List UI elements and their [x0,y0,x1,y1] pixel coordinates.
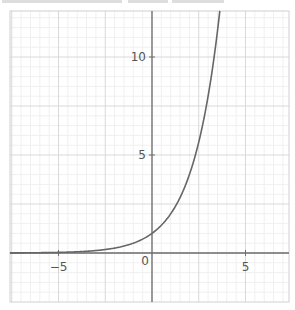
function-plot[interactable]: −5 0 5 5 10 [0,0,295,310]
y-tick-label-5: 5 [138,148,146,162]
minor-grid [10,11,289,302]
origin-label: 0 [141,254,149,268]
y-tick-label-10: 10 [131,50,146,64]
x-tick-label-neg5: −5 [50,260,68,274]
plot-frame [10,11,289,302]
x-tick-label-5: 5 [242,260,250,274]
major-grid [10,11,289,302]
